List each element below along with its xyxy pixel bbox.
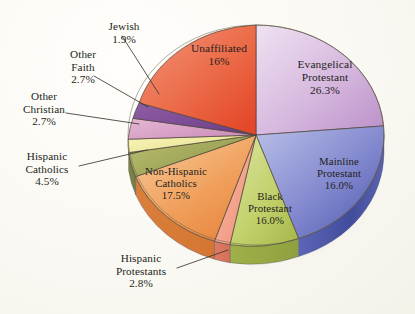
label-black-protestant-value: 16.0% (256, 214, 284, 226)
label-non-hispanic-catholics: Non-Hispanic Catholics17.5% (124, 165, 228, 201)
label-non-hispanic-catholics-value: 17.5% (162, 189, 190, 201)
label-other-christian-value: 2.7% (32, 115, 56, 127)
label-jewish: Jewish1.9% (82, 20, 166, 45)
label-hispanic-protestants: Hispanic Protestants2.8% (95, 252, 187, 290)
label-non-hispanic-catholics-name: Non-Hispanic Catholics (145, 165, 207, 189)
label-evangelical-protestant: Evangelical Protestant26.3% (278, 58, 372, 96)
label-other-faith-value: 2.7% (71, 73, 95, 85)
label-hispanic-catholics: Hispanic Catholics4.5% (6, 150, 88, 188)
pie-chart-figure: Jewish1.9% Other Faith2.7% Other Christi… (0, 0, 415, 314)
label-other-christian-name: Other Christian (23, 90, 65, 115)
label-unaffiliated-name: Unaffiliated (191, 42, 247, 54)
label-jewish-name: Jewish (108, 20, 139, 32)
label-hispanic-catholics-value: 4.5% (35, 175, 59, 187)
label-black-protestant: Black Protestant16.0% (232, 190, 308, 226)
label-jewish-value: 1.9% (112, 33, 136, 45)
label-unaffiliated: Unaffiliated16% (173, 42, 265, 68)
label-mainline-protestant-value: 16.0% (325, 179, 353, 191)
label-mainline-protestant: Mainline Protestant16.0% (297, 155, 381, 191)
label-hispanic-protestants-value: 2.8% (129, 277, 153, 289)
label-other-faith: Other Faith2.7% (44, 48, 122, 86)
label-evangelical-protestant-name: Evangelical Protestant (298, 58, 353, 83)
label-mainline-protestant-name: Mainline Protestant (317, 155, 361, 179)
label-hispanic-protestants-name: Hispanic Protestants (116, 252, 166, 277)
label-hispanic-catholics-name: Hispanic Catholics (25, 150, 68, 175)
label-evangelical-protestant-value: 26.3% (310, 84, 340, 96)
label-unaffiliated-value: 16% (208, 55, 229, 67)
label-other-faith-name: Other Faith (70, 48, 96, 73)
label-other-christian: Other Christian2.7% (2, 90, 86, 128)
label-black-protestant-name: Black Protestant (248, 190, 292, 214)
